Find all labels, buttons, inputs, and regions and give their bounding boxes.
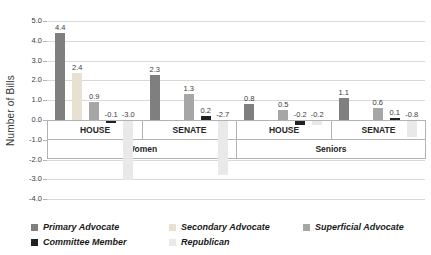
data-label-2-2: 0.5 bbox=[271, 100, 295, 109]
data-label-1-0: 2.3 bbox=[143, 65, 167, 74]
y-tick-label-3.0: 3.0 bbox=[15, 56, 42, 66]
bar-primary-advocate-2 bbox=[244, 104, 254, 120]
bar-republican-0 bbox=[123, 121, 133, 180]
legend-swatch-icon bbox=[31, 224, 38, 231]
plot-area: HOUSESENATEHOUSESENATEWomenSeniors4.42.4… bbox=[47, 21, 425, 200]
data-label-1-4: -2.7 bbox=[211, 110, 235, 119]
data-label-1-2: 1.3 bbox=[177, 84, 201, 93]
legend-item-primary-advocate: Primary Advocate bbox=[31, 222, 119, 232]
y-tick-label-5.0: 5.0 bbox=[15, 16, 42, 26]
legend-item-committee-member: Committee Member bbox=[31, 237, 127, 247]
legend-swatch-icon bbox=[31, 239, 38, 246]
legend-swatch-icon bbox=[303, 224, 310, 231]
bar-committee-member-3 bbox=[390, 118, 400, 120]
legend-label: Republican bbox=[181, 237, 230, 247]
y-tick-label--2.0: -2.0 bbox=[15, 155, 42, 165]
legend-item-secondary-advocate: Secondary Advocate bbox=[169, 222, 270, 232]
axis-box-category-seniors: Seniors bbox=[236, 139, 426, 159]
data-label-3-0: 1.1 bbox=[332, 88, 356, 97]
y-tick-label--4.0: -4.0 bbox=[15, 194, 42, 204]
legend-label: Primary Advocate bbox=[43, 222, 119, 232]
axis-box-category-women: Women bbox=[47, 139, 237, 159]
bar-republican-2 bbox=[312, 121, 322, 125]
bar-secondary-advocate-0 bbox=[72, 73, 82, 121]
legend-item-republican: Republican bbox=[169, 237, 230, 247]
data-label-0-1: 2.4 bbox=[65, 63, 89, 72]
legend-item-superficial-advocate: Superficial Advocate bbox=[303, 222, 404, 232]
y-axis-title-text: Number of Bills bbox=[5, 75, 16, 146]
legend-swatch-icon bbox=[169, 239, 176, 246]
y-tick-label-1.0: 1.0 bbox=[15, 95, 42, 105]
bar-republican-3 bbox=[407, 121, 417, 137]
data-label-0-2: 0.9 bbox=[82, 92, 106, 101]
bar-superficial-advocate-3 bbox=[373, 108, 383, 120]
bar-superficial-advocate-1 bbox=[184, 94, 194, 120]
bar-committee-member-0 bbox=[106, 121, 116, 123]
legend-label: Secondary Advocate bbox=[181, 222, 270, 232]
bar-republican-1 bbox=[218, 121, 228, 175]
bar-chart: Number of Bills 5.04.03.02.01.00.0-1.0-2… bbox=[0, 0, 431, 255]
y-axis-title: Number of Bills bbox=[5, 31, 18, 191]
data-label-0-0: 4.4 bbox=[48, 23, 72, 32]
y-tick-label-4.0: 4.0 bbox=[15, 36, 42, 46]
bar-primary-advocate-3 bbox=[339, 98, 349, 120]
bar-primary-advocate-0 bbox=[55, 33, 65, 120]
y-tick-label-2.0: 2.0 bbox=[15, 75, 42, 85]
bar-superficial-advocate-0 bbox=[89, 102, 99, 120]
legend-swatch-icon bbox=[169, 224, 176, 231]
bar-committee-member-1 bbox=[201, 116, 211, 120]
legend-label: Superficial Advocate bbox=[315, 222, 404, 232]
data-label-3-4: -0.8 bbox=[400, 110, 424, 119]
data-label-2-4: -0.2 bbox=[305, 110, 329, 119]
data-label-2-0: 0.8 bbox=[237, 94, 261, 103]
bar-superficial-advocate-2 bbox=[278, 110, 288, 120]
y-tick-label--3.0: -3.0 bbox=[15, 174, 42, 184]
y-tick-label-0.0: 0.0 bbox=[15, 115, 42, 125]
legend-label: Committee Member bbox=[43, 237, 127, 247]
data-label-3-2: 0.6 bbox=[366, 98, 390, 107]
bar-committee-member-2 bbox=[295, 121, 305, 125]
y-tick-label--1.0: -1.0 bbox=[15, 135, 42, 145]
data-label-0-4: -3.0 bbox=[116, 110, 140, 119]
bar-primary-advocate-1 bbox=[150, 75, 160, 121]
